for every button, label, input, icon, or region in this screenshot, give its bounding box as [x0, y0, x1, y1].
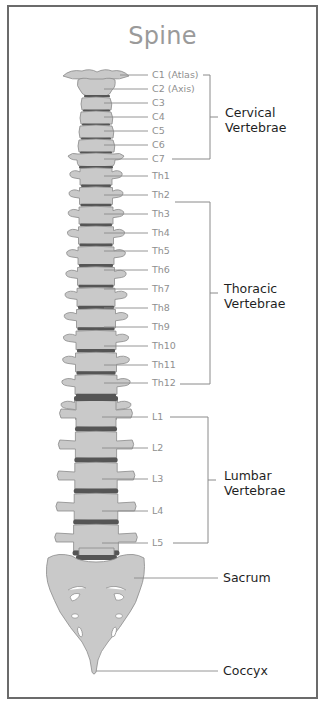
- group-label-cervical-line1: Cervical: [225, 105, 286, 120]
- label-sacrum: Sacrum: [223, 570, 271, 585]
- label-c5: C5: [152, 125, 165, 136]
- cervical-vertebrae-art: [63, 70, 129, 169]
- lumbar-vertebrae-art: [55, 396, 138, 556]
- label-th8: Th8: [152, 302, 170, 313]
- group-label-thoracic: Thoracic Vertebrae: [224, 281, 285, 311]
- label-l3: L3: [152, 473, 163, 484]
- label-th4: Th4: [152, 227, 170, 238]
- label-th6: Th6: [152, 264, 170, 275]
- label-th10: Th10: [152, 340, 176, 351]
- thoracic-vertebrae-art: [61, 168, 131, 421]
- label-th9: Th9: [152, 321, 170, 332]
- group-label-lumbar-line2: Vertebrae: [224, 483, 285, 498]
- label-th12: Th12: [152, 377, 176, 388]
- group-label-lumbar-line1: Lumbar: [224, 468, 285, 483]
- label-l1: L1: [152, 411, 163, 422]
- label-l5: L5: [152, 537, 163, 548]
- group-label-lumbar: Lumbar Vertebrae: [224, 468, 285, 498]
- thoracic-bracket: [175, 202, 218, 384]
- group-label-cervical-line2: Vertebrae: [225, 120, 286, 135]
- label-l2: L2: [152, 442, 163, 453]
- label-th2: Th2: [152, 189, 170, 200]
- group-label-cervical: Cervical Vertebrae: [225, 105, 286, 135]
- label-th7: Th7: [152, 283, 170, 294]
- group-label-thoracic-line1: Thoracic: [224, 281, 285, 296]
- label-coccyx: Coccyx: [223, 663, 268, 678]
- label-c1: C1 (Atlas): [152, 69, 199, 80]
- label-th5: Th5: [152, 245, 170, 256]
- lumbar-bracket: [170, 417, 216, 543]
- label-th11: Th11: [152, 359, 176, 370]
- sacrum-art: [46, 548, 144, 674]
- label-th1: Th1: [152, 170, 170, 181]
- label-c6: C6: [152, 139, 165, 150]
- label-c7: C7: [152, 153, 165, 164]
- label-th3: Th3: [152, 208, 170, 219]
- label-c2: C2 (Axis): [152, 83, 195, 94]
- label-l4: L4: [152, 505, 163, 516]
- label-c3: C3: [152, 97, 165, 108]
- label-c4: C4: [152, 111, 165, 122]
- group-label-thoracic-line2: Vertebrae: [224, 296, 285, 311]
